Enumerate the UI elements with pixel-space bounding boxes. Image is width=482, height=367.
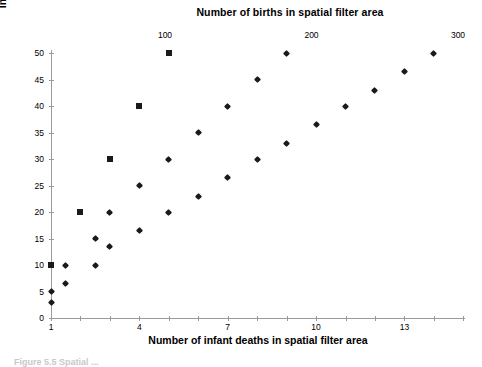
y-tick-label: 10 xyxy=(35,260,44,270)
data-point-diamond xyxy=(165,208,172,215)
data-point-diamond xyxy=(283,140,290,147)
data-point-diamond xyxy=(342,102,349,109)
data-point-diamond xyxy=(47,288,54,295)
data-point-square xyxy=(166,50,172,56)
data-point-diamond xyxy=(106,208,113,215)
data-point-diamond xyxy=(136,182,143,189)
top-tick-label: 100 xyxy=(158,30,172,40)
data-point-square xyxy=(48,262,54,268)
data-point-diamond xyxy=(224,102,231,109)
data-point-square xyxy=(77,209,83,215)
data-point-diamond xyxy=(430,49,437,56)
top-tick-label: 200 xyxy=(304,30,318,40)
top-axis-title: Number of births in spatial filter area xyxy=(120,6,460,18)
x-tick-label: 7 xyxy=(225,322,230,332)
figure-container: Number of births in spatial filter area … xyxy=(0,0,482,367)
data-point-diamond xyxy=(62,280,69,287)
data-point-diamond xyxy=(47,299,54,306)
data-point-diamond xyxy=(195,129,202,136)
y-tick-label: 15 xyxy=(35,234,44,244)
x-axis-title: Number of infant deaths in spatial filte… xyxy=(51,334,465,346)
x-tick-label: 1 xyxy=(49,322,54,332)
data-point-diamond xyxy=(165,155,172,162)
data-point-diamond xyxy=(313,121,320,128)
y-tick-label: 25 xyxy=(35,181,44,191)
data-point-diamond xyxy=(92,261,99,268)
data-point-diamond xyxy=(106,243,113,250)
y-tick-label: 30 xyxy=(35,154,44,164)
y-tick-label: 45 xyxy=(35,75,44,85)
data-point-diamond xyxy=(62,261,69,268)
figure-caption: Figure 5.5 Spatial ... xyxy=(14,357,474,367)
data-point-diamond xyxy=(136,227,143,234)
y-tick-label: 5 xyxy=(39,287,44,297)
data-point-diamond xyxy=(92,235,99,242)
data-point-diamond xyxy=(254,155,261,162)
data-point-diamond xyxy=(195,193,202,200)
plot-area xyxy=(51,53,465,318)
top-tick-label: 300 xyxy=(451,30,465,40)
data-point-square xyxy=(136,103,142,109)
data-point-diamond xyxy=(254,76,261,83)
x-tick-label: 10 xyxy=(311,322,320,332)
data-point-diamond xyxy=(224,174,231,181)
y-tick-label: 0 xyxy=(39,313,44,323)
y-tick-label: 50 xyxy=(35,48,44,58)
y-tick-label: 35 xyxy=(35,128,44,138)
data-point-diamond xyxy=(371,87,378,94)
y-tick-label: 20 xyxy=(35,207,44,217)
data-point-square xyxy=(107,156,113,162)
y-tick-label: 40 xyxy=(35,101,44,111)
x-tick-label: 13 xyxy=(400,322,409,332)
x-tick-label: 4 xyxy=(137,322,142,332)
data-point-diamond xyxy=(283,49,290,56)
y-axis-title: Infant mortality rate (/1000 births) xyxy=(0,0,10,55)
data-point-diamond xyxy=(401,68,408,75)
